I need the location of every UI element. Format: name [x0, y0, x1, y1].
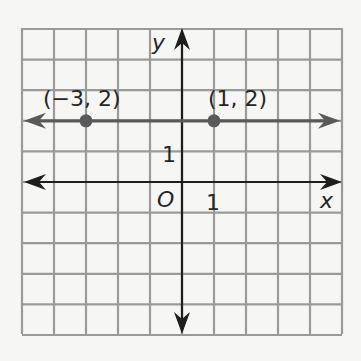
y-tick-label: 1	[162, 142, 176, 167]
y-axis-label: y	[151, 30, 166, 55]
point-dot	[80, 114, 93, 127]
point-dot	[208, 114, 221, 127]
x-axis-label: x	[319, 188, 334, 213]
coordinate-plane-diagram: y x O 1 1 (−3, 2) (1, 2)	[0, 0, 361, 361]
axes	[24, 28, 342, 334]
origin-label: O	[157, 187, 174, 212]
point-label-1-2: (1, 2)	[208, 86, 267, 111]
point-label-neg3-2: (−3, 2)	[43, 86, 121, 111]
coordinate-plane: y x O 1 1 (−3, 2) (1, 2)	[0, 0, 361, 361]
x-tick-label: 1	[206, 190, 220, 215]
